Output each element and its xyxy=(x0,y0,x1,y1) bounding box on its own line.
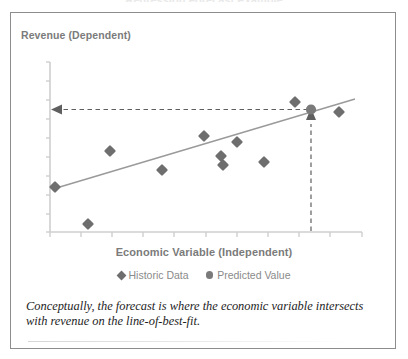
historic-data-points xyxy=(49,96,345,230)
diamond-marker-icon xyxy=(116,270,126,280)
data-point-marker xyxy=(156,164,168,176)
legend-label-predicted-value: Predicted Value xyxy=(217,269,290,281)
figure-canvas: Regression Forecast Example Revenue (Dep… xyxy=(0,0,408,359)
data-point-marker xyxy=(231,136,243,148)
circle-marker-icon xyxy=(206,271,214,279)
x-axis xyxy=(50,232,362,237)
data-point-marker xyxy=(258,156,270,168)
revenue-projection-arrow xyxy=(51,105,308,115)
y-axis xyxy=(46,62,50,232)
data-point-marker xyxy=(82,218,94,230)
data-point-marker xyxy=(217,159,229,171)
figure-caption: Conceptually, the forecast is where the … xyxy=(26,299,372,329)
data-point-marker xyxy=(215,150,227,162)
clipped-header-text: Regression Forecast Example xyxy=(0,0,408,2)
data-point-marker xyxy=(333,106,345,118)
chart-legend: Historic Data Predicted Value xyxy=(0,269,408,281)
data-point-marker xyxy=(104,145,116,157)
legend-item-historic-data: Historic Data xyxy=(118,269,189,281)
data-point-marker xyxy=(289,96,301,108)
predicted-value-marker xyxy=(306,104,316,114)
data-point-marker xyxy=(198,130,210,142)
x-axis-title: Economic Variable (Independent) xyxy=(0,246,408,258)
legend-label-historic-data: Historic Data xyxy=(129,269,189,281)
footer-divider xyxy=(28,341,348,342)
legend-item-predicted-value: Predicted Value xyxy=(206,269,291,281)
economic-variable-arrow xyxy=(306,108,316,231)
